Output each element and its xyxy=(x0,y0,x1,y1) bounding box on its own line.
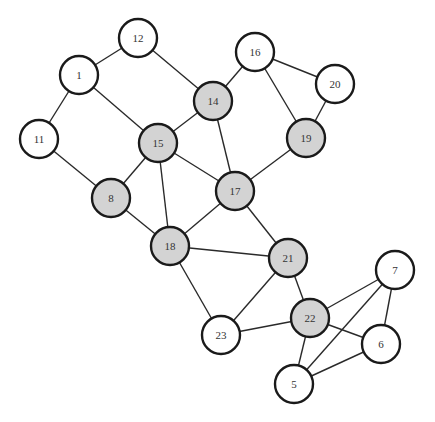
node-layer: 15678111214151617181920212223 xyxy=(20,19,414,403)
node-label: 6 xyxy=(378,338,384,350)
graph-svg: 15678111214151617181920212223 xyxy=(0,0,435,422)
node-label: 14 xyxy=(208,95,220,107)
node-label: 22 xyxy=(305,312,316,324)
node-label: 16 xyxy=(250,46,262,58)
graph-diagram: 15678111214151617181920212223 xyxy=(0,0,435,422)
node-19: 19 xyxy=(287,119,325,157)
node-label: 21 xyxy=(283,252,294,264)
node-23: 23 xyxy=(202,316,240,354)
node-label: 23 xyxy=(216,329,228,341)
node-label: 1 xyxy=(76,69,82,81)
node-label: 11 xyxy=(34,133,45,145)
node-18: 18 xyxy=(151,227,189,265)
node-15: 15 xyxy=(139,124,177,162)
node-label: 17 xyxy=(230,185,242,197)
node-label: 18 xyxy=(165,240,177,252)
node-1: 1 xyxy=(60,56,98,94)
node-16: 16 xyxy=(236,33,274,71)
node-label: 15 xyxy=(153,137,165,149)
node-21: 21 xyxy=(269,239,307,277)
node-8: 8 xyxy=(92,179,130,217)
node-7: 7 xyxy=(376,251,414,289)
node-label: 5 xyxy=(291,378,297,390)
node-11: 11 xyxy=(20,120,58,158)
node-label: 19 xyxy=(301,132,313,144)
node-label: 7 xyxy=(392,264,398,276)
node-6: 6 xyxy=(362,325,400,363)
node-22: 22 xyxy=(291,299,329,337)
node-17: 17 xyxy=(216,172,254,210)
node-label: 12 xyxy=(133,32,144,44)
node-5: 5 xyxy=(275,365,313,403)
node-14: 14 xyxy=(194,82,232,120)
node-12: 12 xyxy=(119,19,157,57)
node-label: 20 xyxy=(330,78,342,90)
node-label: 8 xyxy=(108,192,114,204)
node-20: 20 xyxy=(316,65,354,103)
